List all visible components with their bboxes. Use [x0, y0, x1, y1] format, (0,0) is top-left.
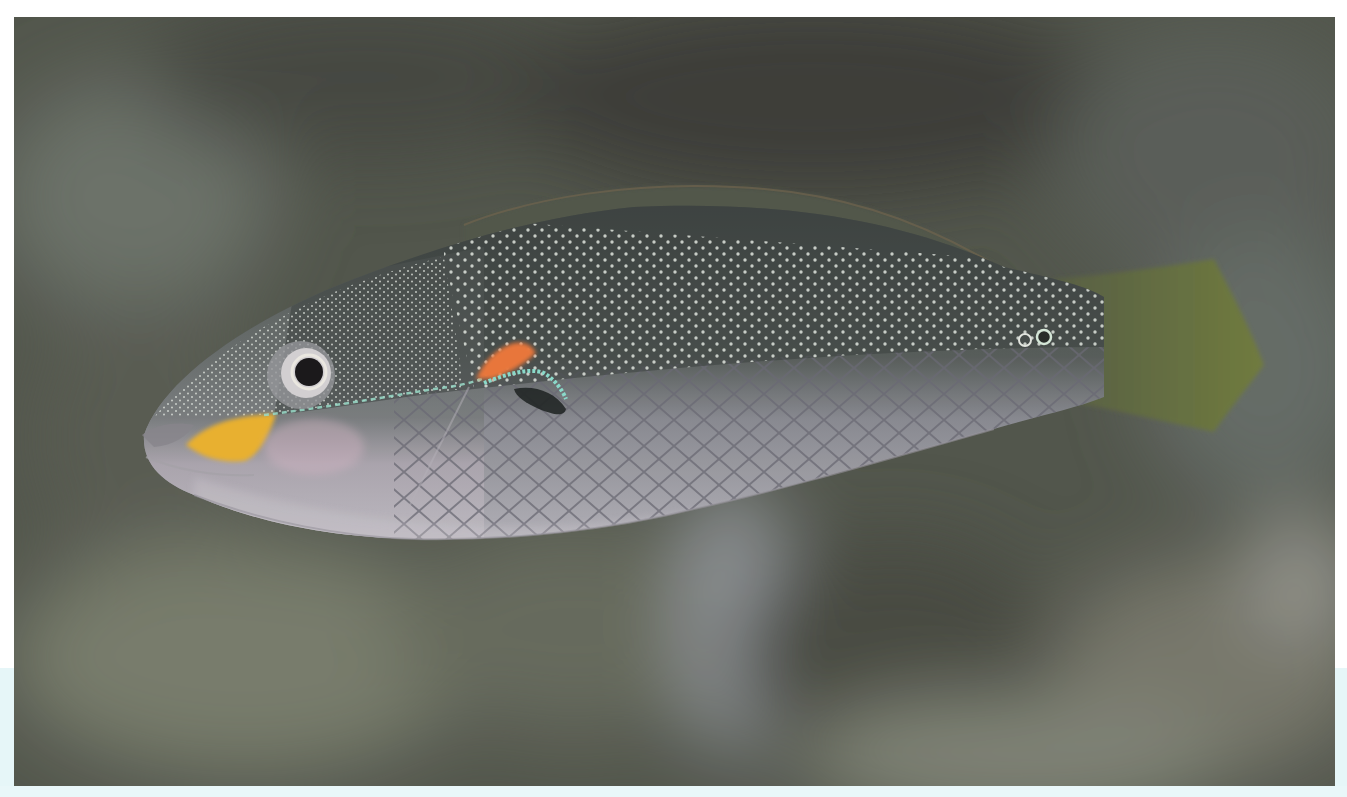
- page-margin-band-left: [0, 668, 14, 797]
- page-margin-band-bottom: [0, 786, 1347, 797]
- fish-illustration: [14, 17, 1335, 786]
- page-margin-band-right: [1335, 668, 1347, 797]
- fish-photograph: [14, 17, 1335, 786]
